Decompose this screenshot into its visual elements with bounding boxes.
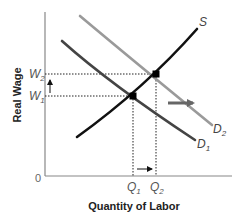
equilibrium-point-2 <box>153 71 160 78</box>
d2-label: D2 <box>213 122 227 138</box>
q2-label: Q2 <box>150 180 164 196</box>
demand-curve-d2 <box>80 16 212 125</box>
w2-label: W2 <box>29 67 45 83</box>
labor-market-diagram: S D2 D1 W2 W1 0 Q1 Q2 Quantity of Labor … <box>0 0 244 222</box>
d1-label: D1 <box>197 137 210 153</box>
supply-curve-s <box>77 29 197 137</box>
origin-label: 0 <box>35 172 41 184</box>
supply-label: S <box>199 15 207 29</box>
x-axis-title: Quantity of Labor <box>88 200 180 212</box>
equilibrium-point-1 <box>130 93 137 100</box>
w1-label: W1 <box>29 89 45 105</box>
q1-label: Q1 <box>127 180 141 196</box>
y-axis-title: Real Wage <box>11 67 23 122</box>
